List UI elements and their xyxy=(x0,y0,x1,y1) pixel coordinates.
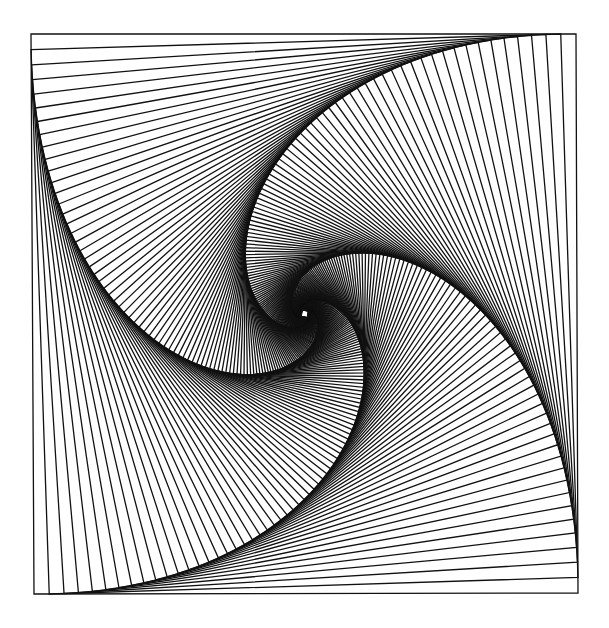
spiral-square xyxy=(114,118,496,510)
spiral-square xyxy=(63,66,547,562)
spiral-square xyxy=(55,58,554,570)
spiral-square xyxy=(75,79,533,549)
spiral-square xyxy=(99,103,511,526)
spiral-square xyxy=(89,93,520,535)
spiral-square xyxy=(134,138,476,489)
spiral-square xyxy=(109,113,501,515)
nested-squares-group xyxy=(31,34,578,594)
spiral-square xyxy=(129,133,481,494)
spiral-square xyxy=(188,193,422,434)
spiral-square xyxy=(80,83,529,544)
spiral-square xyxy=(301,310,308,317)
spiral-square xyxy=(52,54,558,573)
whirl-spiral-artwork xyxy=(0,0,609,628)
spiral-square xyxy=(174,179,436,449)
